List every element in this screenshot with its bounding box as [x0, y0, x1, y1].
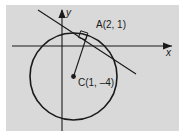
radius-segment	[74, 36, 88, 77]
center-point-dot	[71, 74, 76, 79]
y-axis-arrowhead	[58, 9, 65, 18]
geometry-figure: A(2, 1) C(1, –4) y x	[0, 0, 185, 135]
label-x-axis: x	[166, 48, 171, 58]
diagram-canvas	[0, 0, 185, 135]
x-axis	[12, 42, 172, 49]
label-point-a: A(2, 1)	[96, 20, 126, 30]
label-center-c: C(1, –4)	[78, 78, 114, 88]
label-y-axis: y	[66, 8, 71, 18]
